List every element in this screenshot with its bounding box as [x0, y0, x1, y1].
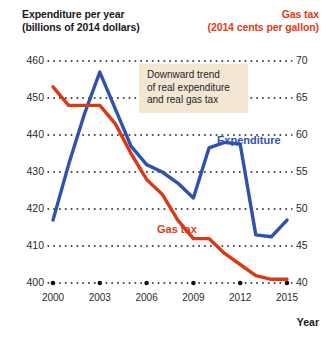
x-axis-tick-label: 2012 [220, 292, 260, 303]
y-axis-left-tick-label: 460 [18, 54, 44, 66]
annotation-line-1: Downward trend [147, 69, 241, 82]
annotation-line-3: and real gas tax [147, 94, 241, 107]
x-axis-tick-label: 2015 [267, 292, 307, 303]
x-axis-tick-dot [238, 281, 243, 286]
x-axis-tick-dot [51, 281, 56, 286]
y-axis-right-tick-label: 45 [296, 239, 322, 251]
x-axis-tick-dot [98, 281, 103, 286]
y-axis-left-tick-label: 410 [18, 239, 44, 251]
x-axis-tick-label: 2003 [80, 292, 120, 303]
y-axis-right-tick-label: 60 [296, 128, 322, 140]
series-label-expenditure: Expenditure [217, 134, 281, 146]
series-label-gas-tax: Gas tax [157, 223, 197, 235]
y-axis-right-tick-label: 40 [296, 276, 322, 288]
y-axis-right-tick-label: 70 [296, 54, 322, 66]
y-axis-left-tick-label: 440 [18, 128, 44, 140]
x-axis-tick-label: 2000 [33, 292, 73, 303]
y-axis-right-tick-label: 50 [296, 202, 322, 214]
annotation-line-2: of real expenditure [147, 82, 241, 95]
x-axis-tick-label: 2006 [127, 292, 167, 303]
x-axis-tick-dot [285, 281, 290, 286]
x-axis-tick-dot [191, 281, 196, 286]
x-axis-title: Year [297, 316, 319, 328]
annotation-callout: Downward trend of real expenditure and r… [139, 64, 248, 113]
series-line-gas-tax [53, 87, 287, 279]
y-axis-left-tick-label: 430 [18, 165, 44, 177]
x-axis-tick-dot [144, 281, 149, 286]
chart-figure: Expenditure per year (billions of 2014 d… [0, 0, 327, 339]
y-axis-right-tick-label: 55 [296, 165, 322, 177]
y-axis-right-tick-label: 65 [296, 91, 322, 103]
y-axis-left-tick-label: 420 [18, 202, 44, 214]
x-axis-tick-label: 2009 [173, 292, 213, 303]
plot-area [0, 0, 327, 339]
y-axis-left-tick-label: 400 [18, 276, 44, 288]
y-axis-left-tick-label: 450 [18, 91, 44, 103]
